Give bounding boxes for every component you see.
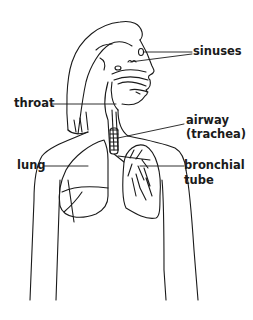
label-sinuses: sinuses	[193, 45, 242, 58]
label-airway: airway	[186, 114, 229, 127]
left-lung-drawing	[118, 145, 160, 218]
torso-outline	[30, 132, 198, 300]
nasal-cavity	[111, 49, 148, 111]
right-lung-drawing	[59, 140, 108, 222]
label-tube: tube	[184, 174, 214, 187]
label-trachea: (trachea)	[186, 128, 246, 141]
label-lung: lung	[17, 159, 46, 172]
label-throat: throat	[14, 97, 55, 110]
label-bronchial: bronchial	[184, 159, 245, 172]
